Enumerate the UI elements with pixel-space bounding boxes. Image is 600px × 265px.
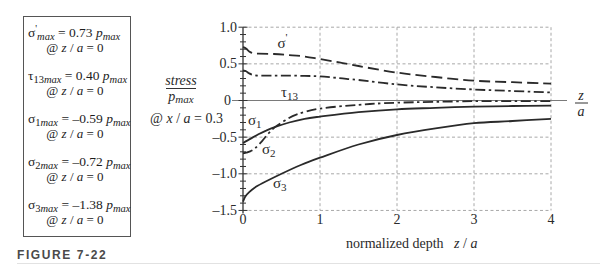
y-tick-label: 1.0 xyxy=(220,20,238,35)
series-label-0: σ' xyxy=(277,31,287,51)
series-label-subscript: 13 xyxy=(287,90,299,102)
x-axis-label: normalized depth z / a xyxy=(346,236,477,251)
x-label-part: normalized depth xyxy=(346,236,454,251)
pressure-symbol: p xyxy=(167,89,175,104)
note-part: a xyxy=(184,111,191,126)
series-label-symbol: σ xyxy=(262,141,270,157)
y-tick-label: –1.5 xyxy=(212,203,238,218)
series-label-subscript: 2 xyxy=(270,147,276,159)
series-label-2: σ1 xyxy=(248,112,262,130)
axis-end-numerator: z xyxy=(577,88,584,103)
y-tick-label: 0.5 xyxy=(220,56,238,71)
x-tick-label: 0 xyxy=(240,212,247,227)
series-label-symbol: σ xyxy=(273,175,281,191)
x-tick-label: 3 xyxy=(471,212,478,227)
series-label-subscript: 1 xyxy=(256,118,262,130)
series-label-prime: ' xyxy=(286,31,288,43)
y-axis-label-numerator: stress xyxy=(165,73,197,88)
stress-vs-depth-chart: 1.00.50–0.5–1.0–1.501234σ'τ13σ1σ2σ3stres… xyxy=(0,0,600,265)
series-label-3: σ2 xyxy=(262,141,276,159)
y-tick-label: –1.0 xyxy=(212,166,238,181)
y-axis-note: @ x / a = 0.3 xyxy=(150,111,223,126)
figure-label: FIGURE 7-22 xyxy=(17,248,107,262)
series-label-subscript: 3 xyxy=(281,181,287,193)
series-label-4: σ3 xyxy=(273,175,287,193)
y-axis-label-denominator: pmax xyxy=(167,89,193,106)
x-tick-label: 1 xyxy=(317,212,324,227)
note-part: / xyxy=(173,111,184,126)
x-tick-label: 4 xyxy=(548,212,555,227)
series-label-1: τ13 xyxy=(281,84,299,102)
y-tick-label: 0 xyxy=(224,93,231,108)
x-label-part: a xyxy=(470,236,477,251)
note-part: = 0.3 xyxy=(191,111,223,126)
y-tick-label: –0.5 xyxy=(212,130,238,145)
note-part: @ xyxy=(150,111,166,126)
series-label-symbol: σ xyxy=(248,112,256,128)
x-tick-label: 2 xyxy=(394,212,401,227)
series-label-symbol: σ xyxy=(277,35,285,51)
figure-divider xyxy=(17,263,600,264)
x-label-part: / xyxy=(460,236,471,251)
axis-end-denominator: a xyxy=(578,104,585,119)
pressure-subscript: max xyxy=(175,93,193,105)
